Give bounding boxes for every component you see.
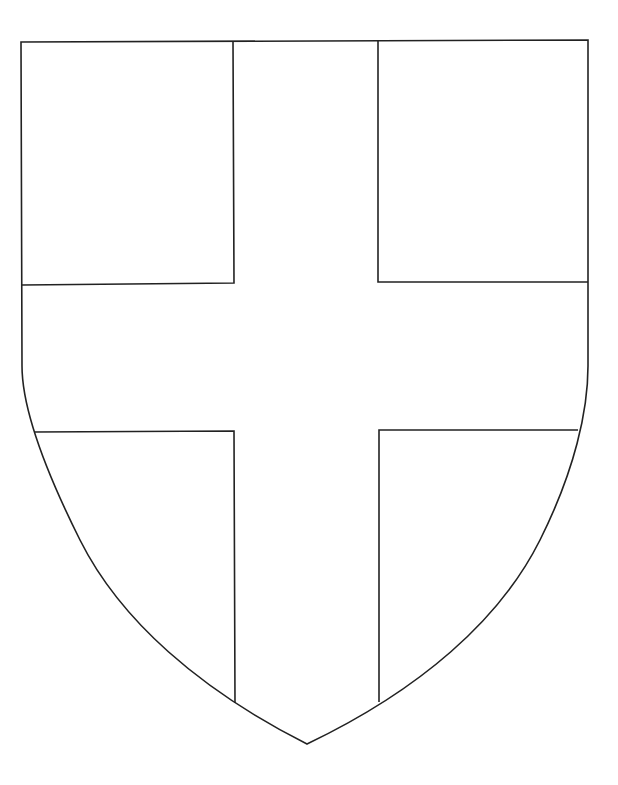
shield-drawing bbox=[0, 0, 618, 785]
